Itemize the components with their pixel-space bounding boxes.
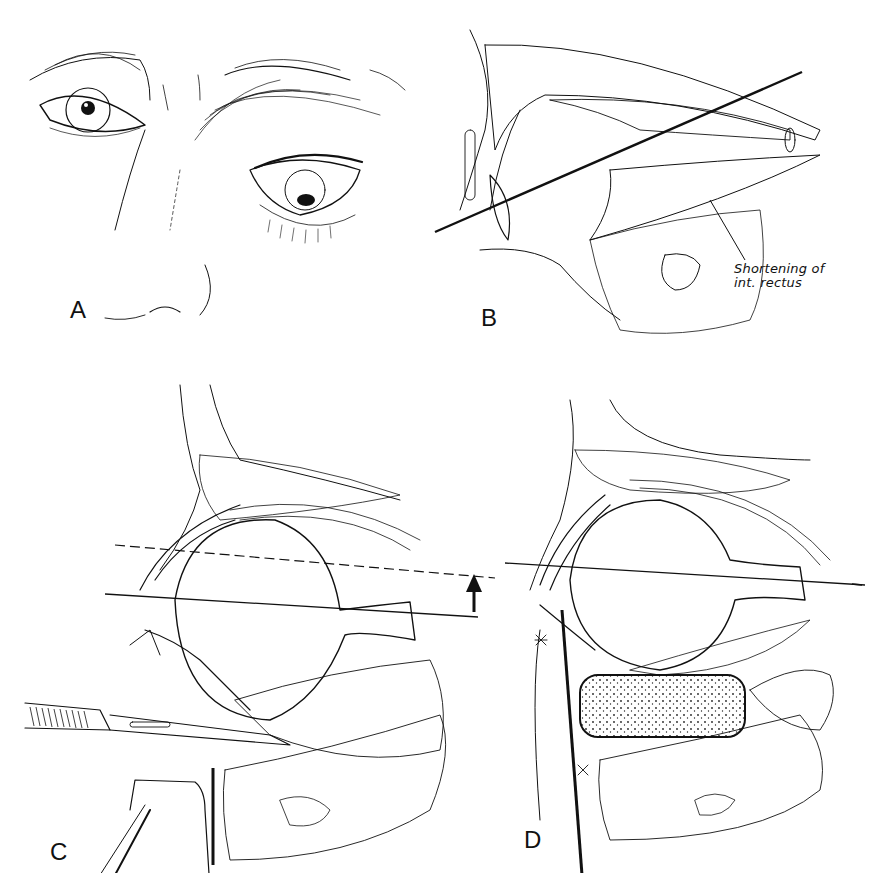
panel-label-c: C <box>50 840 67 864</box>
panel-d: D <box>500 370 888 873</box>
panel-c: C <box>0 370 500 873</box>
panel-a: A <box>0 0 430 340</box>
orbit-section-d <box>500 370 888 873</box>
annotation-shortening-int-rectus: Shortening of int. rectus <box>734 262 825 290</box>
panel-b: Shortening of int. rectus B <box>430 0 888 370</box>
panel-label-b: B <box>481 306 497 330</box>
orbit-section-b <box>430 0 888 370</box>
annotation-line-2: int. rectus <box>734 276 825 290</box>
annotation-line-1: Shortening of <box>734 262 825 276</box>
orbit-section-c <box>0 370 500 873</box>
face-illustration <box>0 0 430 340</box>
panel-label-d: D <box>524 828 541 852</box>
panel-label-a: A <box>70 298 86 322</box>
